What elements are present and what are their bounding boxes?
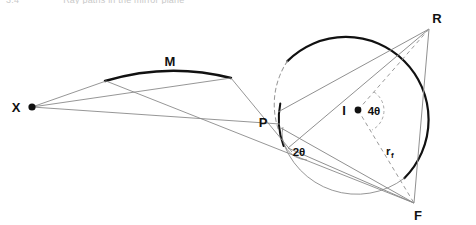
label-point-R: R xyxy=(432,11,442,26)
label-point-P: P xyxy=(259,115,268,130)
mirror-arc xyxy=(105,71,231,81)
point-marker-I xyxy=(355,107,362,114)
chord-P-to-R xyxy=(278,29,429,112)
ray-vertex-to-F xyxy=(288,148,414,203)
ray-x-lower-to-P xyxy=(32,107,280,124)
ray-R-to-angle-vertex xyxy=(288,29,429,148)
label-angle-4theta: 4θ xyxy=(368,105,381,117)
label-radius-subscript: f xyxy=(391,151,394,160)
chord-R-to-F xyxy=(414,29,429,203)
optics-diagram: X P R F I M 2θ 4θ rf xyxy=(0,0,476,225)
point-marker-X xyxy=(28,103,35,110)
label-mirror-M: M xyxy=(165,54,176,69)
page-header-remnant: 3.4Ray paths in the mirror plane xyxy=(0,0,476,4)
circle-dashed-arc xyxy=(274,61,287,137)
label-radius-rf: rf xyxy=(386,145,394,160)
label-point-F: F xyxy=(414,208,422,223)
label-point-I: I xyxy=(342,103,346,118)
page-header-number: 3.4 xyxy=(6,0,19,4)
label-point-X: X xyxy=(12,100,21,115)
ray-x-to-mirror-left xyxy=(32,81,106,107)
chord-P-to-F xyxy=(281,128,414,203)
label-angle-2theta: 2θ xyxy=(293,146,306,158)
ray-mirror-left-to-F xyxy=(106,81,414,203)
figure-root: 3.4Ray paths in the mirror plane xyxy=(0,0,476,225)
ray-x-to-mirror-right xyxy=(32,78,231,107)
page-header-text: Ray paths in the mirror plane xyxy=(63,0,184,4)
